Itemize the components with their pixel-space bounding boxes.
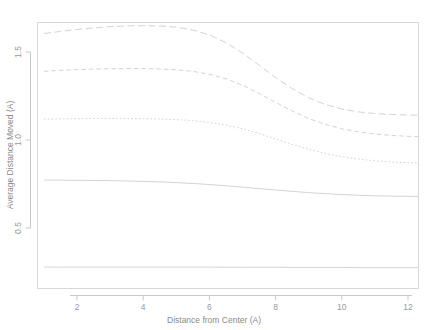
x-tick-label: 8 <box>273 302 278 312</box>
y-axis-title: Average Distance Moved (A) <box>5 101 15 210</box>
series-line-curve-5 <box>44 267 418 268</box>
x-tick-label: 6 <box>207 302 212 312</box>
y-tick-label: 0.5 <box>13 222 23 234</box>
x-tick-label: 10 <box>337 302 347 312</box>
x-tick-label: 12 <box>403 302 413 312</box>
x-tick-label: 2 <box>75 302 80 312</box>
chart-background <box>0 0 429 330</box>
line-chart-figure: 24681012 0.51.01.5 Distance from Center … <box>0 0 429 330</box>
y-tick-label: 1.5 <box>13 46 23 58</box>
x-axis-title: Distance from Center (A) <box>167 315 261 325</box>
x-tick-label: 4 <box>141 302 146 312</box>
